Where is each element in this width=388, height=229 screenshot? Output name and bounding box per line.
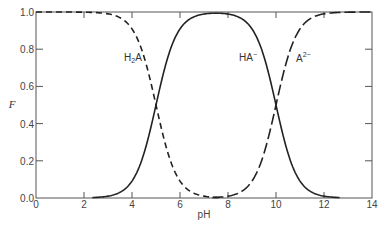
x-tick-label: 10 bbox=[270, 199, 282, 210]
x-tick-label: 14 bbox=[366, 199, 378, 210]
curve-ha- bbox=[92, 13, 339, 197]
curve-a2- bbox=[212, 12, 372, 198]
x-tick-label: 12 bbox=[318, 199, 330, 210]
y-tick-label: 0.2 bbox=[20, 156, 34, 167]
plot-frame bbox=[36, 12, 372, 198]
x-axis-label: pH bbox=[198, 209, 211, 220]
y-tick-label: 0.4 bbox=[20, 119, 34, 130]
x-tick-label: 4 bbox=[129, 199, 135, 210]
y-tick-label: 1.0 bbox=[20, 7, 34, 18]
label-ha-minus: HA− bbox=[239, 51, 257, 63]
y-axis-label: F bbox=[8, 98, 16, 110]
y-tick-label: 0.0 bbox=[20, 193, 34, 204]
x-tick-label: 6 bbox=[177, 199, 183, 210]
axis-ticks bbox=[36, 12, 372, 198]
x-tick-label: 8 bbox=[225, 199, 231, 210]
label-h2a: H2A bbox=[124, 52, 142, 64]
x-tick-label: 0 bbox=[33, 199, 39, 210]
chart-canvas: 024681012140.00.20.40.60.81.0 pH F H2A H… bbox=[0, 0, 388, 229]
tick-labels: 024681012140.00.20.40.60.81.0 bbox=[20, 7, 378, 210]
y-tick-label: 0.8 bbox=[20, 44, 34, 55]
curves bbox=[36, 12, 372, 198]
x-tick-label: 2 bbox=[81, 199, 87, 210]
curve-h2a bbox=[36, 12, 220, 198]
label-a2-minus: A2− bbox=[296, 51, 311, 64]
y-tick-label: 0.6 bbox=[20, 81, 34, 92]
